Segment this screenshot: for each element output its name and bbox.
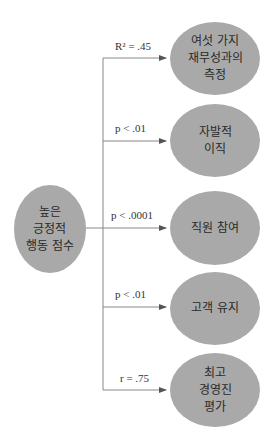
target-node-label: 여섯 가지 재무성과의 측정 [188,33,243,84]
stat-label-5: r = .75 [120,372,149,384]
target-node-3: 직원 참여 [170,191,260,265]
stat-label-3: p < .0001 [111,209,153,221]
target-node-label: 자발적 이직 [199,124,232,158]
source-node-label: 높은 긍정적 행동 점수 [26,204,74,255]
stat-label-4: p < .01 [115,288,146,300]
target-node-5: 최고 경영진 평가 [170,353,260,427]
target-node-label: 최고 경영진 평가 [199,365,232,416]
target-node-label: 직원 참여 [191,220,239,237]
stat-label-2: p < .01 [115,122,146,134]
source-node: 높은 긍정적 행동 점수 [14,185,86,273]
diagram: 높은 긍정적 행동 점수 R² = .45 여섯 가지 재무성과의 측정 p <… [0,0,276,442]
target-node-2: 자발적 이직 [170,104,260,177]
stat-label-1: R² = .45 [115,40,151,52]
target-node-4: 고객 유지 [170,272,260,345]
target-node-1: 여섯 가지 재무성과의 측정 [170,22,260,95]
target-node-label: 고객 유지 [191,300,239,317]
